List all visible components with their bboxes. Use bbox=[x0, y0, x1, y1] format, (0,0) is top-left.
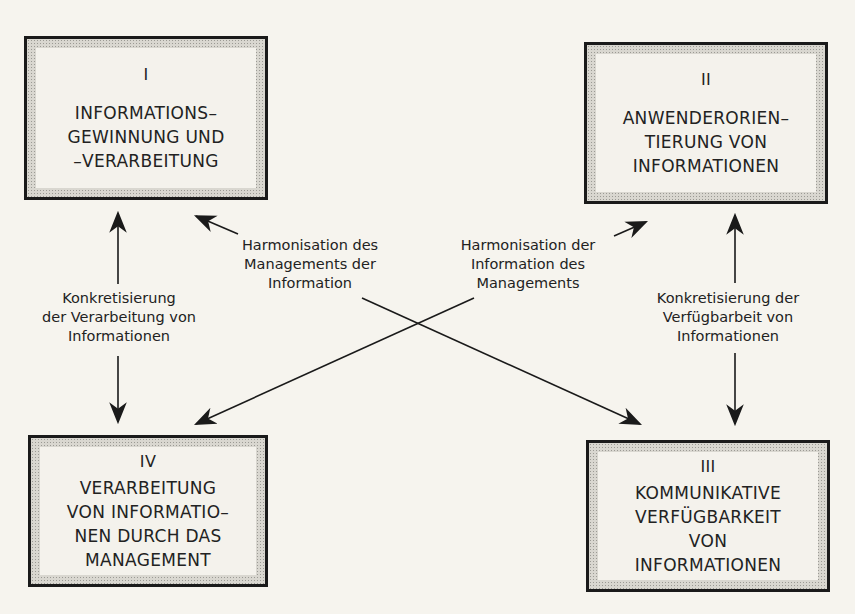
box-text-line: VERARBEITUNG bbox=[80, 476, 217, 500]
arrow-ii-iv-upper bbox=[614, 222, 646, 236]
box-iv-verarbeitung-management: IV VERARBEITUNG VON INFORMATIO– NEN DURC… bbox=[28, 435, 268, 587]
box-text-line: KOMMUNIKATIVE bbox=[635, 481, 781, 505]
box-text-line: VON INFORMATIO– bbox=[67, 500, 229, 524]
arrow-i-iii-upper bbox=[196, 216, 238, 234]
relation-label-i-iv: Konkretisierung der Verarbeitung von Inf… bbox=[14, 289, 224, 346]
box-text-line: INFORMATIONEN bbox=[633, 154, 780, 178]
box-numeral: I bbox=[143, 63, 148, 87]
box-text-line: NEN DURCH DAS bbox=[74, 524, 221, 548]
arrow-ii-iv-lower bbox=[196, 298, 474, 424]
box-text-line: ANWENDERORIEN– bbox=[623, 106, 790, 130]
box-text-line: TIERUNG VON bbox=[645, 130, 767, 154]
box-text-line: MANAGEMENT bbox=[85, 548, 211, 572]
relation-label-ii-iii: Konkretisierung der Verfügbarbeit von In… bbox=[608, 289, 848, 346]
box-i-informationsgewinnung: I INFORMATIONS– GEWINNUNG UND –VERARBEIT… bbox=[24, 36, 268, 200]
box-numeral: II bbox=[701, 68, 711, 92]
box-numeral: III bbox=[700, 455, 715, 479]
box-text-line: VERFÜGBARKEIT bbox=[635, 505, 781, 529]
box-text-line: –VERARBEITUNG bbox=[73, 149, 218, 173]
box-numeral: IV bbox=[140, 450, 156, 474]
relation-label-i-iii: Harmonisation des Managements der Inform… bbox=[210, 236, 410, 293]
box-text-line: VON bbox=[689, 529, 727, 553]
box-text-line: GEWINNUNG UND bbox=[67, 125, 224, 149]
box-iii-kommunikative-verfuegbarkeit: III KOMMUNIKATIVE VERFÜGBARKEIT VON INFO… bbox=[586, 440, 830, 592]
relation-label-ii-iv: Harmonisation der Information des Manage… bbox=[428, 236, 628, 293]
box-ii-anwenderorientierung: II ANWENDERORIEN– TIERUNG VON INFORMATIO… bbox=[584, 42, 828, 204]
arrow-i-iii-lower bbox=[362, 298, 640, 424]
box-text-line: INFORMATIONS– bbox=[75, 101, 217, 125]
box-text-line: INFORMATIONEN bbox=[635, 553, 782, 577]
